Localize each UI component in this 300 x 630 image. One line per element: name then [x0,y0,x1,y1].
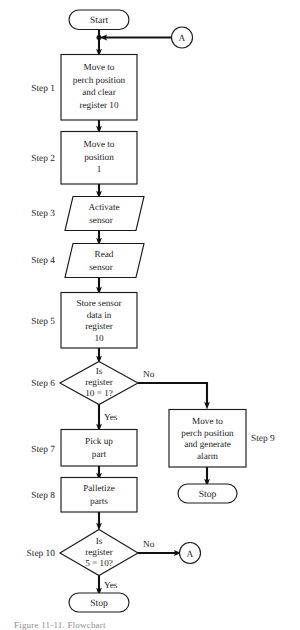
step7-line-2: part [92,449,107,459]
node-step2: Move to position 1 [61,132,137,185]
stop-end-label: Stop [90,598,108,609]
step1-line-3: and clear [82,87,115,97]
step9-line-3: and generate [184,439,231,449]
step5-line-2: data in [87,310,112,320]
step-label-step2: Step 2 [31,154,55,164]
node-stop-end: Stop [69,593,129,612]
node-step9: Move to perch position and generate alar… [169,410,246,468]
step9-line-4: alarm [197,451,218,461]
node-step8: Palletize parts [61,478,137,513]
step2-line-3: 1 [97,164,102,174]
step5-line-1: Store sensor [76,298,121,308]
step6-line-3: 10 = 1? [85,388,113,398]
step8-line-2: parts [90,496,108,506]
node-step6: Is register 10 = 1? [60,362,138,405]
step6-line-2: register [85,377,113,387]
step-label-step9: Step 9 [251,434,275,444]
step10-line-2: register [85,547,113,557]
step-label-step3: Step 3 [31,209,55,219]
step5-line-4: 10 [94,333,104,343]
step-label-step10: Step 10 [27,549,56,559]
branch-label-step6-no: No [143,369,155,379]
node-step5: Store sensor data in register 10 [61,293,137,349]
branch-label-step10-no: No [143,539,155,549]
step-label-step4: Step 4 [31,256,55,266]
connector-a-bottom: A [180,543,201,564]
stop-alarm-label: Stop [199,489,217,500]
step10-line-3: 5 = 10? [85,558,113,568]
edge-step6-no-to-step9 [138,383,207,406]
step5-line-3: register [85,321,113,331]
node-stop-alarm: Stop [178,484,237,503]
step2-line-1: Move to [84,139,115,149]
step3-line-2: sensor [89,215,112,225]
connector-a-top: A [172,27,193,48]
step4-line-2: sensor [89,262,112,272]
step1-line-2: perch position [73,75,126,85]
branch-label-step10-yes: Yes [104,580,118,590]
step-label-step7: Step 7 [31,445,55,455]
step-label-step5: Step 5 [31,317,55,327]
step2-line-2: position [84,152,114,162]
connector-a-bottom-label: A [187,550,194,560]
step6-line-1: Is [96,366,103,376]
start-label: Start [90,15,108,26]
node-step7: Pick up part [61,430,137,467]
node-step1: Move to perch position and clear registe… [61,55,137,121]
node-step3: Activate sensor [65,197,144,231]
step9-line-2: perch position [181,428,234,438]
step-label-step1: Step 1 [31,84,55,94]
node-step4: Read sensor [65,244,144,278]
branch-label-step6-yes: Yes [104,412,118,422]
step1-line-1: Move to [84,62,115,72]
step-label-step6: Step 6 [31,379,55,389]
connector-a-top-label: A [179,34,186,44]
figure-caption: Figure 11-11. Flowchart [14,620,106,630]
step4-line-1: Read [95,249,114,259]
step7-line-1: Pick up [85,436,113,446]
step3-line-1: Activate [88,202,119,212]
node-step10: Is register 5 = 10? [60,530,138,576]
node-start: Start [69,10,129,30]
step1-line-4: register 10 [79,100,118,110]
step9-line-1: Move to [192,416,223,426]
step-label-step8: Step 8 [31,491,55,501]
step8-line-1: Palletize [83,483,115,493]
step10-line-1: Is [96,536,103,546]
